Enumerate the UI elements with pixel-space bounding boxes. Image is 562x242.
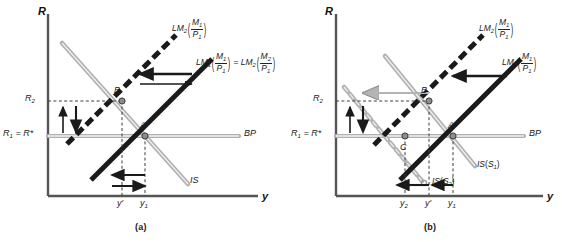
panel-b-xtick-yprime: y′ — [425, 199, 431, 208]
panel-b-point-B-label: B — [421, 86, 427, 95]
curve-lm2 — [67, 35, 176, 144]
figure-container: R y R2 R1 = R* y′ y1 B A LM2(M1P1) LM1(M… — [0, 0, 562, 242]
panel-b-point-A-label: A — [448, 121, 454, 130]
panel-a-point-A-label: A — [140, 121, 146, 130]
panel-b-ytick-R1: R1 = R* — [291, 129, 321, 139]
panel-a-curve-label-lm2: LM2(M1P1) — [172, 18, 207, 40]
panel-a-curve-label-lm1: LM1(M1P1) = LM2(M2P1) — [196, 52, 276, 74]
panel-a-xtick-y1: y1 — [140, 199, 148, 209]
panel-b-curve-label-is-s1: IS(S1) — [477, 160, 500, 170]
panel-a-curve-label-is: IS — [190, 176, 199, 185]
panel-a-ytick-R1: R1 = R* — [3, 129, 33, 139]
panel-a-point-B-label: B — [114, 86, 120, 95]
panel-a-curve-label-bp: BP — [244, 129, 256, 138]
axis-lines — [336, 14, 543, 196]
point-markers — [119, 98, 148, 139]
panel-a-y-axis-label: R — [38, 5, 46, 17]
panel-a: R y R2 R1 = R* y′ y1 B A LM2(M1P1) LM1(M… — [0, 0, 281, 242]
panel-a-xtick-yprime: y′ — [117, 199, 123, 208]
panel-b-curve-label-bp: BP — [529, 129, 541, 138]
curve-is — [62, 43, 188, 184]
panel-b-x-axis-label: y — [547, 190, 553, 202]
panel-b-curve-label-is-s2: IS(S2) — [432, 177, 455, 187]
output-change-arrows — [112, 175, 145, 186]
rate-change-arrows — [63, 106, 76, 133]
panel-a-x-axis-label: y — [262, 190, 268, 202]
panel-b-ytick-R2: R2 — [313, 94, 323, 104]
panel-b-curve-label-lm2: LM2(M1P1) — [479, 18, 514, 40]
panel-b-caption: (b) — [424, 222, 436, 232]
panel-b-point-C-label: C — [400, 143, 407, 152]
panel-b-y-axis-label: R — [325, 5, 333, 17]
panel-a-caption: (a) — [135, 222, 147, 232]
panel-b: R y R2 R1 = R* y2 y′ y1 B A C LM2(M1P1) … — [281, 0, 562, 242]
lm-shift-arrows — [140, 74, 192, 84]
panel-b-curve-label-lm1: LM1(M1P1) — [502, 52, 537, 74]
panel-b-xtick-y2: y2 — [400, 199, 408, 209]
panel-a-ytick-R2: R2 — [25, 94, 35, 104]
panel-b-graphic — [281, 0, 562, 242]
axis-lines — [48, 14, 258, 196]
panel-b-xtick-y1: y1 — [448, 199, 456, 209]
curve-lm1 — [91, 59, 212, 180]
